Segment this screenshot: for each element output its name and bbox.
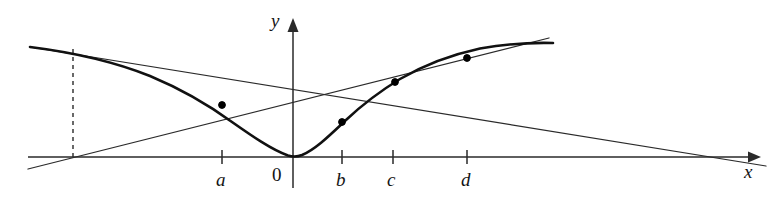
tick-label-a: a bbox=[216, 169, 226, 190]
tangent-line-descending bbox=[30, 47, 766, 166]
figure-canvas: y x 0 a b c d bbox=[0, 0, 780, 199]
marked-point-c bbox=[392, 79, 399, 86]
tick-label-b: b bbox=[336, 169, 346, 190]
marked-point-b bbox=[339, 119, 346, 126]
tick-label-d: d bbox=[461, 169, 471, 190]
marked-point-d bbox=[464, 55, 471, 62]
origin-label: 0 bbox=[272, 164, 282, 185]
y-axis-label: y bbox=[269, 10, 280, 31]
marked-point-a bbox=[219, 102, 226, 109]
math-figure: y x 0 a b c d bbox=[0, 0, 780, 199]
y-axis-arrowhead bbox=[288, 18, 299, 32]
tick-label-c: c bbox=[387, 169, 396, 190]
